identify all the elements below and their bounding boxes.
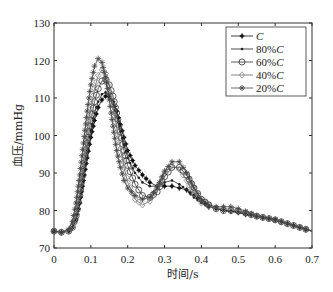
y-tick-label: 80 [39, 205, 51, 217]
series-line [54, 96, 312, 232]
series-marker [114, 148, 120, 154]
series-marker [137, 176, 140, 179]
series-marker [103, 74, 109, 80]
y-axis-label: 血压/mmHg [11, 104, 25, 167]
series-marker [117, 164, 123, 170]
y-tick-label: 120 [34, 55, 51, 67]
series-marker [176, 159, 182, 165]
x-axis-label: 时间/s [167, 268, 199, 281]
x-tick-label: 0.6 [268, 253, 282, 265]
series-marker [89, 76, 95, 82]
x-tick-label: 0.4 [195, 253, 209, 265]
legend-marker [241, 48, 244, 51]
x-tick-label: 0 [51, 253, 57, 265]
series-marker [121, 178, 127, 184]
y-tick-label: 70 [39, 242, 51, 254]
series-marker [92, 63, 98, 69]
x-tick-label: 0.3 [158, 253, 172, 265]
series-marker [110, 123, 116, 129]
series-marker [169, 183, 174, 189]
legend-entry: 80%C [256, 43, 284, 55]
legend-entry: 40%C [256, 69, 284, 81]
series-marker [141, 181, 144, 184]
x-tick-label: 0.5 [231, 253, 245, 265]
y-tick-label: 130 [34, 17, 51, 29]
series-marker [90, 69, 96, 75]
series-marker [83, 115, 89, 121]
series-marker [182, 186, 185, 189]
chart: 70809010011012013000.10.20.30.40.50.60.7… [0, 0, 333, 292]
series-marker [101, 93, 104, 96]
legend-entry: 20%C [256, 82, 284, 94]
x-tick-label: 0.2 [121, 253, 135, 265]
legend-entry: C [256, 30, 264, 42]
plot-svg: 70809010011012013000.10.20.30.40.50.60.7… [0, 0, 333, 292]
x-tick-label: 0.7 [305, 253, 319, 265]
legend-entry: 60%C [256, 56, 284, 68]
series-marker [113, 141, 119, 147]
series-line [54, 92, 312, 232]
y-tick-label: 100 [34, 130, 51, 142]
series-marker [119, 171, 125, 177]
series-marker [171, 179, 174, 182]
series-line [54, 79, 312, 232]
series-marker [134, 172, 137, 175]
series-marker [100, 64, 106, 70]
series-marker [178, 183, 181, 186]
x-tick-label: 0.1 [84, 253, 98, 265]
y-tick-label: 90 [39, 167, 51, 179]
y-tick-label: 110 [34, 92, 51, 104]
series-marker [185, 189, 188, 192]
series-marker [149, 185, 152, 188]
series-marker [112, 135, 118, 141]
